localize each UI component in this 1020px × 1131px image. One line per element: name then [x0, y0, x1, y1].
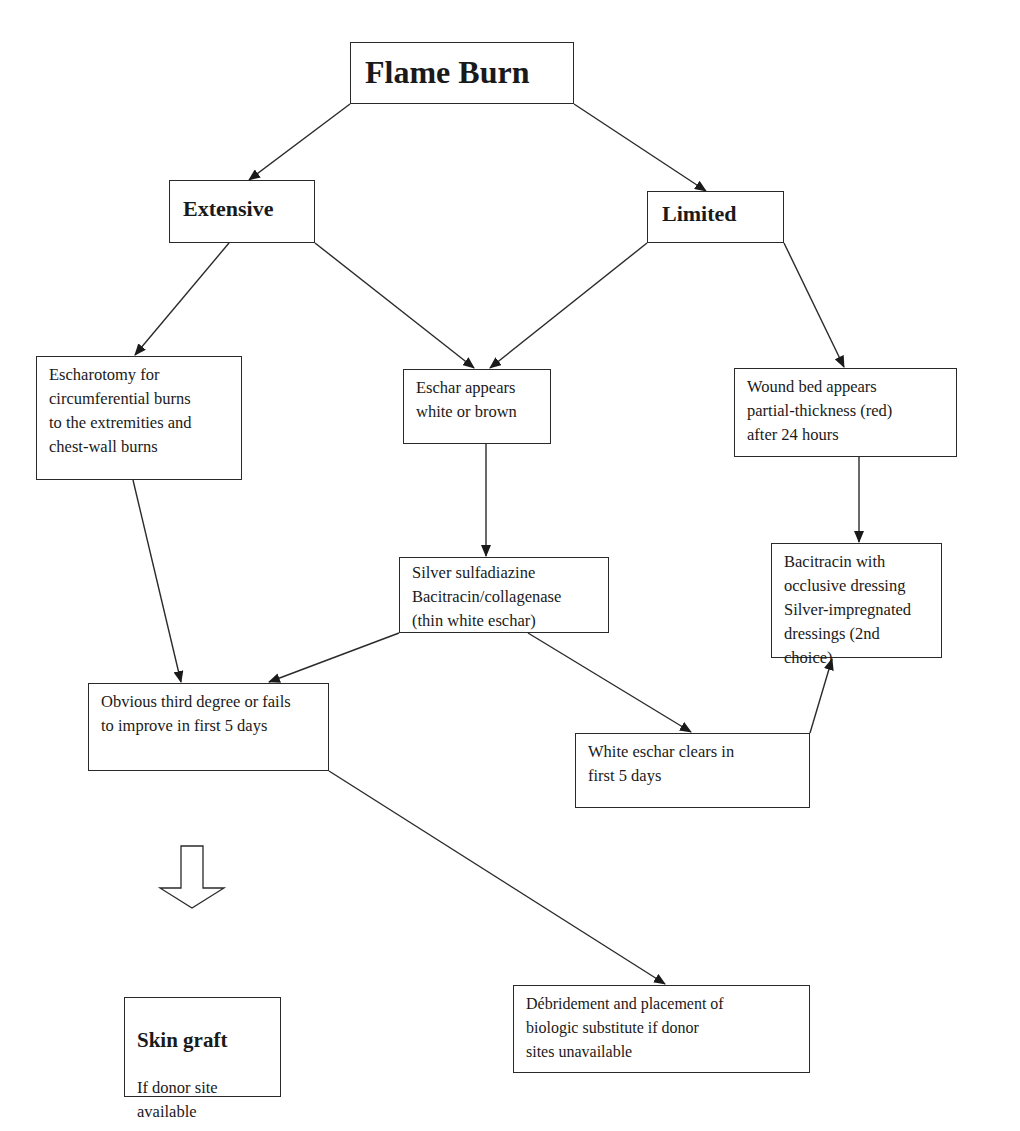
node-escharotomy: Escharotomy for circumferential burns to… — [36, 356, 242, 480]
edge-escharotomy-to-obvious — [133, 480, 181, 682]
node-white-eschar-clears: White eschar clears in first 5 days — [575, 733, 810, 808]
node-limited: Limited — [647, 191, 784, 243]
node-silver-sulfadiazine: Silver sulfadiazine Bacitracin/collagena… — [399, 557, 609, 633]
edge-extensive-to-eschar — [315, 243, 474, 368]
edge-flame-to-limited — [574, 104, 706, 191]
edge-silver-to-obvious — [269, 633, 399, 682]
skin-graft-title: Skin graft — [137, 1028, 268, 1052]
node-bacitracin-occlusive: Bacitracin with occlusive dressing Silve… — [771, 543, 942, 658]
node-extensive: Extensive — [169, 180, 315, 243]
node-obvious-third-degree: Obvious third degree or fails to improve… — [88, 683, 329, 771]
skin-graft-subtitle: If donor site available — [137, 1076, 268, 1124]
hollow-down-arrow-icon — [160, 846, 224, 908]
node-eschar-appears: Eschar appears white or brown — [403, 369, 551, 444]
edge-extensive-to-escharotomy — [135, 243, 229, 355]
edge-silver-to-whiteeschar — [528, 633, 691, 732]
edge-limited-to-eschar — [490, 243, 647, 368]
edge-whiteeschar-to-bacitracin — [810, 659, 832, 733]
node-debridement: Débridement and placement of biologic su… — [513, 985, 810, 1073]
edge-flame-to-extensive — [249, 104, 350, 180]
node-flame-burn: Flame Burn — [350, 42, 574, 104]
node-skin-graft: Skin graft If donor site available — [124, 997, 281, 1097]
edge-limited-to-woundbed — [784, 243, 844, 367]
node-wound-bed: Wound bed appears partial-thickness (red… — [734, 368, 957, 457]
